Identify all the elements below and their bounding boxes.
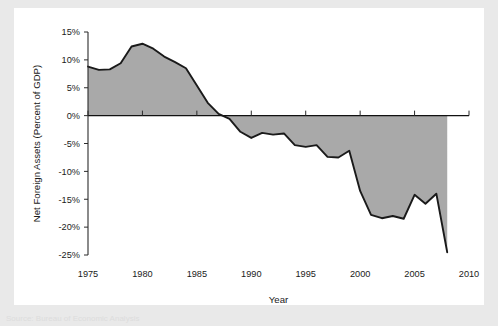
y-axis-tick-label: 15% [62,27,80,37]
x-axis-title: Year [269,294,289,305]
x-axis-tick-label: 2005 [404,269,424,279]
x-axis-tick-label: 1990 [241,269,261,279]
y-axis-tick-label: -20% [59,222,80,232]
x-axis-tick-labels: 19751980198519901995200020052010 [78,269,479,279]
x-axis-tick-label: 1985 [187,269,207,279]
net-foreign-assets-area-chart: 15%10%5%0%-5%-10%-15%-20%-25% 1975198019… [14,8,484,305]
chart-figure: 15%10%5%0%-5%-10%-15%-20%-25% 1975198019… [14,8,484,305]
y-axis-title: Net Foreign Assets (Percent of GDP) [31,65,42,222]
y-axis-tick-label: 10% [62,55,80,65]
y-axis [84,32,88,255]
y-axis-tick-labels: 15%10%5%0%-5%-10%-15%-20%-25% [59,27,80,260]
y-axis-tick-label: -5% [64,139,80,149]
y-axis-tick-label: 5% [67,83,80,93]
x-axis-tick-label: 1975 [78,269,98,279]
data-area-fill [88,44,447,253]
figure-page: 15%10%5%0%-5%-10%-15%-20%-25% 1975198019… [0,0,498,326]
y-axis-tick-label: -25% [59,250,80,260]
x-axis-tick-label: 1980 [132,269,152,279]
y-axis-tick-label: -15% [59,195,80,205]
y-axis-tick-label: 0% [67,111,80,121]
y-axis-tick-label: -10% [59,167,80,177]
x-axis-tick-label: 2010 [459,269,479,279]
chart-plot-area: 15%10%5%0%-5%-10%-15%-20%-25% 1975198019… [14,8,484,305]
source-footnote: Source: Bureau of Economic Analysis [6,314,306,325]
x-axis-tick-label: 1995 [295,269,315,279]
area-fill-path [88,44,447,253]
x-axis-tick-label: 2000 [350,269,370,279]
